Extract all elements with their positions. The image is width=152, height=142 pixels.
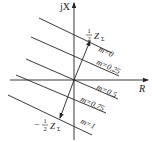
label-m-0: m=0: [97, 45, 115, 59]
impedance-diagram: jX R m=0 m=0.25 m=0.5 m=0.75 m=1 1 2 Z Σ…: [0, 0, 152, 142]
svg-text:Z: Z: [94, 31, 100, 41]
svg-text:2: 2: [43, 125, 46, 132]
svg-text:Σ: Σ: [101, 36, 105, 42]
y-axis-label: jX: [59, 1, 71, 12]
label-m-0.25: m=0.25: [95, 58, 122, 76]
svg-text:1: 1: [87, 27, 90, 34]
svg-text:2: 2: [87, 35, 90, 42]
label-half-z-positive: 1 2 Z Σ: [86, 27, 105, 42]
vector-half-z-positive: [74, 41, 90, 80]
svg-text:Σ: Σ: [57, 126, 61, 132]
label-m-0.5: m=0.5: [95, 83, 118, 100]
svg-text:Z: Z: [50, 121, 56, 131]
label-half-z-negative: − 1 2 Z Σ: [34, 117, 61, 132]
svg-text:−: −: [34, 119, 39, 129]
x-axis-label: R: [138, 83, 145, 94]
svg-text:1: 1: [43, 117, 46, 124]
label-m-1: m=1: [79, 117, 97, 131]
label-m-0.75: m=0.75: [79, 95, 106, 113]
